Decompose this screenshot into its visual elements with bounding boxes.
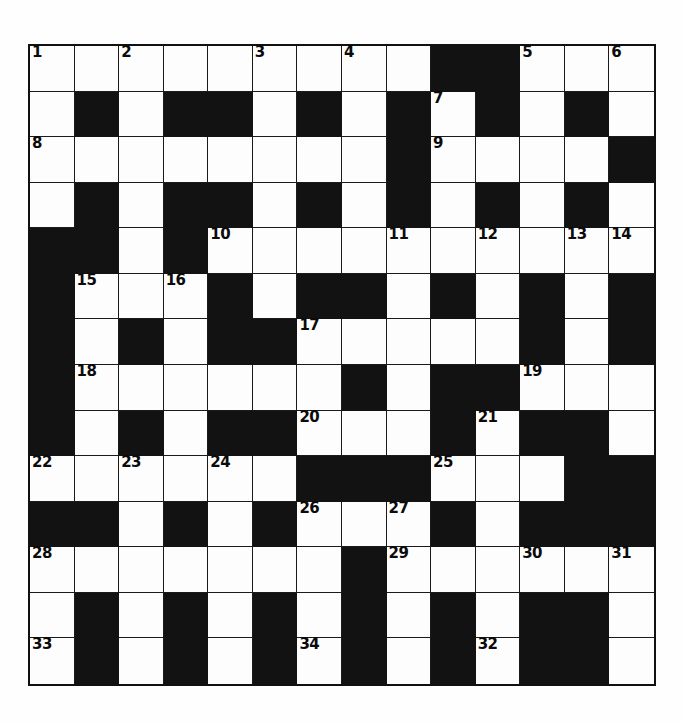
crossword-cell[interactable] bbox=[119, 274, 164, 320]
crossword-cell[interactable] bbox=[520, 228, 565, 274]
crossword-cell[interactable] bbox=[342, 502, 387, 548]
crossword-cell[interactable]: 28 bbox=[30, 547, 75, 593]
crossword-cell[interactable] bbox=[387, 319, 432, 365]
crossword-cell[interactable]: 1 bbox=[30, 46, 75, 92]
crossword-cell[interactable] bbox=[208, 593, 253, 639]
crossword-cell[interactable]: 5 bbox=[520, 46, 565, 92]
crossword-cell[interactable] bbox=[297, 46, 342, 92]
crossword-cell[interactable]: 34 bbox=[297, 638, 342, 684]
crossword-cell[interactable] bbox=[164, 547, 209, 593]
crossword-cell[interactable] bbox=[342, 183, 387, 229]
crossword-cell[interactable] bbox=[520, 183, 565, 229]
crossword-cell[interactable] bbox=[565, 319, 610, 365]
crossword-cell[interactable] bbox=[119, 137, 164, 183]
crossword-cell[interactable] bbox=[476, 274, 521, 320]
crossword-cell[interactable] bbox=[609, 411, 654, 457]
crossword-cell[interactable] bbox=[476, 593, 521, 639]
crossword-cell[interactable] bbox=[208, 547, 253, 593]
crossword-cell[interactable] bbox=[30, 92, 75, 138]
crossword-cell[interactable] bbox=[476, 456, 521, 502]
crossword-cell[interactable] bbox=[387, 638, 432, 684]
crossword-cell[interactable] bbox=[253, 274, 298, 320]
crossword-cell[interactable] bbox=[609, 183, 654, 229]
crossword-cell[interactable] bbox=[387, 411, 432, 457]
crossword-cell[interactable] bbox=[75, 456, 120, 502]
crossword-cell[interactable] bbox=[253, 456, 298, 502]
crossword-cell[interactable] bbox=[297, 228, 342, 274]
crossword-cell[interactable] bbox=[208, 46, 253, 92]
crossword-cell[interactable] bbox=[253, 547, 298, 593]
crossword-cell[interactable] bbox=[476, 502, 521, 548]
crossword-cell[interactable] bbox=[253, 92, 298, 138]
crossword-cell[interactable]: 15 bbox=[75, 274, 120, 320]
crossword-cell[interactable] bbox=[342, 228, 387, 274]
crossword-cell[interactable] bbox=[565, 547, 610, 593]
crossword-cell[interactable] bbox=[609, 593, 654, 639]
crossword-cell[interactable]: 7 bbox=[431, 92, 476, 138]
crossword-cell[interactable]: 8 bbox=[30, 137, 75, 183]
crossword-cell[interactable]: 16 bbox=[164, 274, 209, 320]
crossword-cell[interactable] bbox=[609, 638, 654, 684]
crossword-cell[interactable] bbox=[297, 593, 342, 639]
crossword-cell[interactable]: 26 bbox=[297, 502, 342, 548]
crossword-cell[interactable] bbox=[164, 137, 209, 183]
crossword-cell[interactable]: 4 bbox=[342, 46, 387, 92]
crossword-cell[interactable] bbox=[253, 365, 298, 411]
crossword-cell[interactable] bbox=[164, 46, 209, 92]
crossword-cell[interactable] bbox=[342, 137, 387, 183]
crossword-cell[interactable]: 6 bbox=[609, 46, 654, 92]
crossword-cell[interactable] bbox=[431, 183, 476, 229]
crossword-cell[interactable] bbox=[75, 547, 120, 593]
crossword-cell[interactable] bbox=[476, 547, 521, 593]
crossword-cell[interactable]: 14 bbox=[609, 228, 654, 274]
crossword-cell[interactable] bbox=[75, 46, 120, 92]
crossword-cell[interactable] bbox=[387, 365, 432, 411]
crossword-cell[interactable] bbox=[30, 593, 75, 639]
crossword-cell[interactable] bbox=[297, 137, 342, 183]
crossword-cell[interactable] bbox=[75, 319, 120, 365]
crossword-cell[interactable] bbox=[253, 137, 298, 183]
crossword-cell[interactable] bbox=[164, 365, 209, 411]
crossword-cell[interactable]: 10 bbox=[208, 228, 253, 274]
crossword-cell[interactable] bbox=[609, 92, 654, 138]
crossword-cell[interactable]: 20 bbox=[297, 411, 342, 457]
crossword-cell[interactable] bbox=[208, 365, 253, 411]
crossword-cell[interactable] bbox=[253, 183, 298, 229]
crossword-cell[interactable]: 27 bbox=[387, 502, 432, 548]
crossword-cell[interactable] bbox=[297, 547, 342, 593]
crossword-cell[interactable]: 23 bbox=[119, 456, 164, 502]
crossword-cell[interactable] bbox=[208, 638, 253, 684]
crossword-cell[interactable]: 9 bbox=[431, 137, 476, 183]
crossword-cell[interactable] bbox=[30, 183, 75, 229]
crossword-cell[interactable]: 31 bbox=[609, 547, 654, 593]
crossword-cell[interactable] bbox=[476, 137, 521, 183]
crossword-cell[interactable] bbox=[431, 547, 476, 593]
crossword-cell[interactable] bbox=[119, 638, 164, 684]
crossword-cell[interactable]: 19 bbox=[520, 365, 565, 411]
crossword-cell[interactable] bbox=[119, 593, 164, 639]
crossword-cell[interactable]: 12 bbox=[476, 228, 521, 274]
crossword-cell[interactable] bbox=[119, 502, 164, 548]
crossword-cell[interactable] bbox=[431, 319, 476, 365]
crossword-cell[interactable] bbox=[387, 593, 432, 639]
crossword-cell[interactable]: 22 bbox=[30, 456, 75, 502]
crossword-cell[interactable]: 30 bbox=[520, 547, 565, 593]
crossword-cell[interactable] bbox=[164, 456, 209, 502]
crossword-cell[interactable] bbox=[520, 456, 565, 502]
crossword-cell[interactable] bbox=[476, 319, 521, 365]
crossword-cell[interactable]: 3 bbox=[253, 46, 298, 92]
crossword-cell[interactable]: 17 bbox=[297, 319, 342, 365]
crossword-grid[interactable]: 1234567891011121314151617181920212223242… bbox=[28, 44, 656, 686]
crossword-cell[interactable] bbox=[387, 274, 432, 320]
crossword-cell[interactable] bbox=[208, 502, 253, 548]
crossword-cell[interactable]: 18 bbox=[75, 365, 120, 411]
crossword-cell[interactable] bbox=[431, 228, 476, 274]
crossword-cell[interactable] bbox=[119, 365, 164, 411]
crossword-cell[interactable] bbox=[75, 411, 120, 457]
crossword-cell[interactable] bbox=[119, 183, 164, 229]
crossword-cell[interactable] bbox=[609, 365, 654, 411]
crossword-cell[interactable]: 24 bbox=[208, 456, 253, 502]
crossword-cell[interactable] bbox=[253, 228, 298, 274]
crossword-cell[interactable] bbox=[164, 319, 209, 365]
crossword-cell[interactable] bbox=[565, 137, 610, 183]
